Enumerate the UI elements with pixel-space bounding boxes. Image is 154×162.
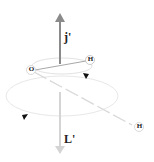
label-j-prime: j' xyxy=(64,30,71,45)
label-L-prime: L' xyxy=(64,132,75,147)
outer-orbit-ellipse xyxy=(6,76,118,116)
label-atom-H1: H xyxy=(87,55,94,63)
molecule-rotation-diagram xyxy=(0,0,154,162)
label-atom-O: O xyxy=(28,65,35,73)
rotation-arrow-outer-icon xyxy=(22,114,28,120)
arrow-up-icon xyxy=(55,13,65,22)
arrow-down-icon xyxy=(55,146,65,154)
inner-orbit-ellipse xyxy=(32,58,92,74)
label-atom-H2: H xyxy=(136,122,143,130)
